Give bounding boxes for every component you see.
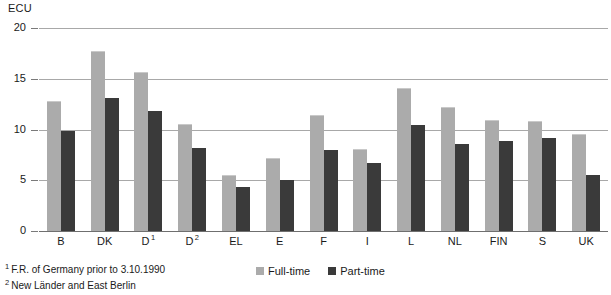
y-tick-mark-15 [31,79,38,80]
x-tick-label-6: F [302,235,346,247]
x-tick-label-7: I [345,235,389,247]
bar-group [222,28,250,231]
legend-label: Part-time [340,265,385,277]
x-tick-label-3: D2 [170,235,214,247]
y-tick-mark-5 [31,180,38,181]
bar-group [353,28,381,231]
x-tick-label-2: D1 [126,235,170,247]
bar-full-time[interactable] [397,88,411,231]
bar-part-time[interactable] [455,144,469,231]
footnote-2: 2New Länder and East Berlin [5,278,165,294]
bar-full-time[interactable] [178,124,192,231]
bar-full-time[interactable] [485,120,499,231]
legend-swatch-icon [256,267,264,275]
bar-group [572,28,600,231]
bar-full-time[interactable] [441,107,455,231]
x-tick-label-8: L [389,235,433,247]
bar-group [178,28,206,231]
bar-full-time[interactable] [47,101,61,231]
legend-item-full-time[interactable]: Full-time [256,265,310,277]
y-tick-label-5: 5 [0,173,26,185]
bar-full-time[interactable] [134,72,148,231]
y-tick-label-10: 10 [0,123,26,135]
bar-full-time[interactable] [528,121,542,231]
bar-part-time[interactable] [236,187,250,231]
legend-item-part-time[interactable]: Part-time [328,265,385,277]
x-tick-label-4: EL [214,235,258,247]
y-tick-mark-0 [31,231,38,232]
footnote-1: 1F.R. of Germany prior to 3.10.1990 [5,262,165,278]
bar-group [441,28,469,231]
legend-swatch-icon [328,267,336,275]
bar-full-time[interactable] [572,134,586,231]
bar-part-time[interactable] [192,148,206,231]
bar-full-time[interactable] [91,51,105,231]
x-tick-label-11: S [520,235,564,247]
bar-part-time[interactable] [324,150,338,231]
bar-full-time[interactable] [222,175,236,231]
bar-full-time[interactable] [310,115,324,231]
bar-part-time[interactable] [411,125,425,231]
y-tick-label-0: 0 [0,224,26,236]
legend-label: Full-time [268,265,310,277]
bar-full-time[interactable] [266,158,280,231]
bar-part-time[interactable] [542,138,556,231]
x-tick-label-9: NL [433,235,477,247]
y-tick-mark-10 [31,130,38,131]
footnotes: 1F.R. of Germany prior to 3.10.19902New … [5,262,165,294]
x-tick-label-5: E [258,235,302,247]
bar-part-time[interactable] [280,180,294,231]
x-tick-label-12: UK [564,235,608,247]
bar-full-time[interactable] [353,149,367,231]
category-axis: BDKD1D2ELEFILNLFINSUK [39,235,608,255]
y-tick-mark-20 [31,28,38,29]
chart-figure: ECU BDKD1D2ELEFILNLFINSUK 1F.R. of Germa… [0,0,611,295]
bar-group [397,28,425,231]
bar-group [485,28,513,231]
bar-part-time[interactable] [61,131,75,231]
bar-part-time[interactable] [105,98,119,231]
bar-group [310,28,338,231]
y-tick-label-20: 20 [0,21,26,33]
bar-part-time[interactable] [148,111,162,231]
y-tick-label-15: 15 [0,72,26,84]
x-tick-label-0: B [39,235,83,247]
chart-legend: Full-timePart-time [256,265,385,277]
bar-group [528,28,556,231]
gridline-0 [39,231,608,232]
x-tick-label-1: DK [83,235,127,247]
y-axis-unit-label: ECU [8,2,32,14]
bar-group [134,28,162,231]
bar-group [91,28,119,231]
bar-part-time[interactable] [367,163,381,231]
bar-part-time[interactable] [586,175,600,231]
bars-layer [39,28,608,231]
x-tick-label-10: FIN [477,235,521,247]
bar-group [266,28,294,231]
bar-group [47,28,75,231]
bar-part-time[interactable] [499,141,513,231]
